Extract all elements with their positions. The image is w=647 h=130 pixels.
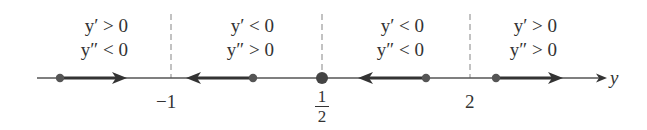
region-3-second-derivative: y″ < 0 <box>368 40 424 59</box>
region-1-second-derivative: y″ < 0 <box>72 40 128 59</box>
sample-point <box>422 74 430 82</box>
fraction-denominator: 2 <box>318 107 327 126</box>
sample-point <box>56 74 64 82</box>
region-4-first-derivative: y′ > 0 <box>505 16 557 35</box>
axis-label-y: y <box>610 68 618 87</box>
region-1-first-derivative: y′ > 0 <box>76 16 128 35</box>
region-2-first-derivative: y′ < 0 <box>222 16 274 35</box>
region-2-second-derivative: y″ > 0 <box>218 40 274 59</box>
tick-label-half: 1 2 <box>315 88 329 125</box>
sample-point <box>492 74 500 82</box>
sample-point <box>249 74 257 82</box>
equilibrium-point <box>316 72 328 84</box>
region-3-first-derivative: y′ < 0 <box>372 16 424 35</box>
region-4-second-derivative: y″ > 0 <box>501 40 557 59</box>
fraction-numerator: 1 <box>318 87 327 106</box>
tick-label-two: 2 <box>465 92 475 111</box>
tick-label-neg1: −1 <box>156 92 176 111</box>
